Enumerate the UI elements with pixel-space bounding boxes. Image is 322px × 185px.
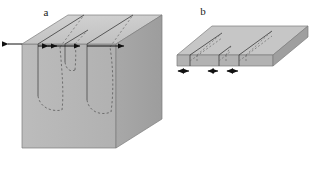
- figure-root: a: [0, 0, 322, 185]
- crack-spacing-figure: a: [0, 0, 322, 185]
- block-front-face: [22, 44, 116, 148]
- panel-b-label: b: [200, 5, 206, 17]
- slab-front-face: [177, 55, 273, 66]
- panel-a-label: a: [44, 6, 49, 18]
